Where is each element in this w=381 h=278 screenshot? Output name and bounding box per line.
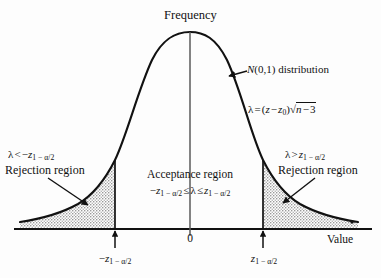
left-z-subscript: 1 − α/2 [32,153,54,162]
acceptance-inequality-annotation: −z1 − α/2≤λ≤z1 − α/2 [119,184,261,199]
left-rejection-region-label: Rejection region [5,164,85,177]
distribution-annotation: N(0,1) distribution [247,63,329,75]
equals-sign: = [253,103,261,115]
frequency-axis-title: Frequency [0,8,381,22]
n-symbol: n [296,103,302,115]
acceptance-region-label: Acceptance region [119,168,261,181]
right-rejection-region-label: Rejection region [278,164,358,177]
distribution-text: distribution [275,63,328,75]
right-z-subscript: 1 − α/2 [303,153,325,162]
left-rejection-leader-arrow [48,178,88,205]
lambda-formula-annotation: λ=(z−z0)√n−3 [248,103,316,118]
three-value: 3 [310,103,316,115]
acceptance-sub-right: 1 − α/2 [208,189,230,198]
left-inequality-annotation: λ<−z1 − α/2 [8,148,54,163]
center-tick-label: 0 [178,232,202,245]
acceptance-lambda-symbol: λ [190,184,195,196]
neg-crit-subscript: 1 − α/2 [109,257,131,266]
acceptance-le-right: ≤ [196,184,204,196]
right-rejection-leader-arrow [283,178,315,203]
pos-crit-subscript: 1 − α/2 [255,257,277,266]
value-axis-label: Value [327,233,353,246]
acceptance-sub-left: 1 − α/2 [160,189,182,198]
axis-end-dot [350,220,353,223]
right-inequality-annotation: λ>z1 − α/2 [285,148,325,163]
minus-sign-2: − [302,103,310,115]
upper-critical-value-label: z1 − α/2 [232,252,296,267]
lower-critical-value-label: −z1 − α/2 [80,252,150,267]
distribution-args: (0,1) [254,63,275,75]
radicand: n−3 [296,102,317,115]
left-relation-sign: < [13,148,21,160]
right-relation-sign: > [290,148,298,160]
normal-distribution-figure: Frequency N(0,1) distribution λ=(z−z0)√n… [0,0,381,278]
minus-sign: − [270,103,278,115]
